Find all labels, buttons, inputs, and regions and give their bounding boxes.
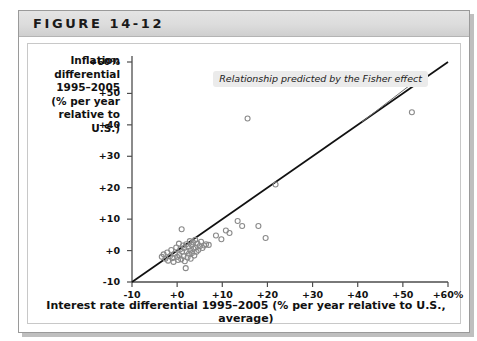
y-tick-label: -10 (80, 276, 120, 287)
y-tick-label: +20 (80, 182, 120, 193)
figure-container: FIGURE 14-12 Inflationdifferential1995–2… (0, 0, 477, 341)
chart-panel: Inflationdifferential1995–2005(% per yea… (27, 43, 461, 324)
figure-card: FIGURE 14-12 Inflationdifferential1995–2… (18, 10, 470, 333)
x-tick-label: +30 (293, 289, 333, 300)
x-tick-label: +40 (338, 289, 378, 300)
y-tick-label: +10 (80, 213, 120, 224)
y-tick-label: +50 (80, 87, 120, 98)
figure-header-bar: FIGURE 14-12 (19, 11, 469, 37)
x-tick-label: +20 (247, 289, 287, 300)
plot-area: Inflationdifferential1995–2005(% per yea… (28, 44, 462, 325)
x-tick-label: -10 (112, 289, 152, 300)
x-axis-title: Interest rate differential 1995–2005 (% … (46, 299, 446, 325)
figure-number-label: FIGURE 14-12 (33, 16, 164, 31)
x-tick-label: +60% (428, 289, 468, 300)
x-tick-label: +50 (383, 289, 423, 300)
y-tick-label: +40 (80, 119, 120, 130)
x-tick-label: +10 (202, 289, 242, 300)
y-tick-label: +60% (80, 56, 120, 67)
fisher-effect-annotation: Relationship predicted by the Fisher eff… (213, 71, 428, 87)
y-tick-label: +0 (80, 245, 120, 256)
y-tick-label: +30 (80, 150, 120, 161)
x-tick-label: +0 (157, 289, 197, 300)
y-axis-title-line-1: differential (34, 68, 120, 82)
